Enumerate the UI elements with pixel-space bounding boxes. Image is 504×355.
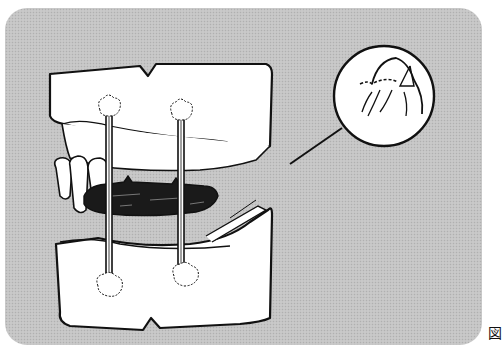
stick-left [106,112,112,280]
magnified-detail-circle [334,46,434,146]
stick-right [178,116,184,272]
lower-jaw-cast [56,200,272,330]
upper-jaw-cast [50,64,272,171]
figure-label: 図 [488,326,502,340]
dental-model-illustration [0,0,504,355]
leader-line [290,128,342,164]
